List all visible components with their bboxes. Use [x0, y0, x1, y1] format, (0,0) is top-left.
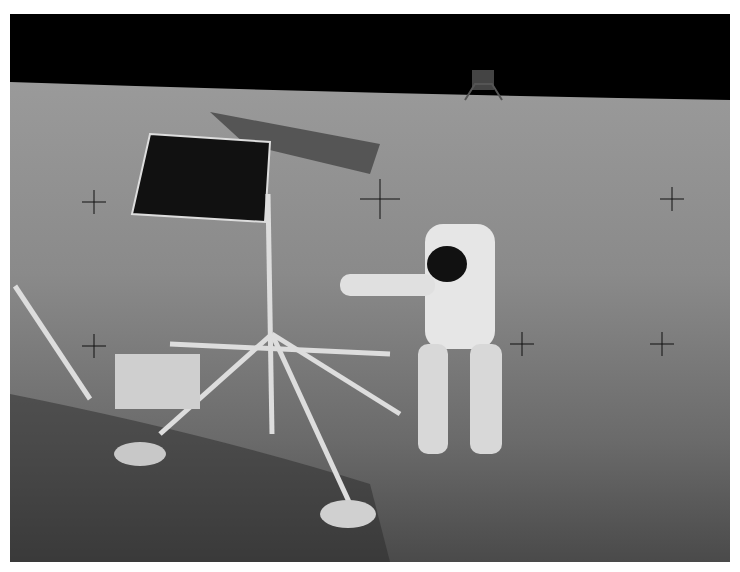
lunar-photo	[10, 14, 730, 562]
footpad-left	[114, 442, 166, 466]
sky	[10, 14, 730, 89]
photo-canvas	[10, 14, 730, 562]
antenna-panel	[132, 134, 270, 222]
lander-box	[115, 354, 200, 409]
footpad	[320, 500, 376, 528]
